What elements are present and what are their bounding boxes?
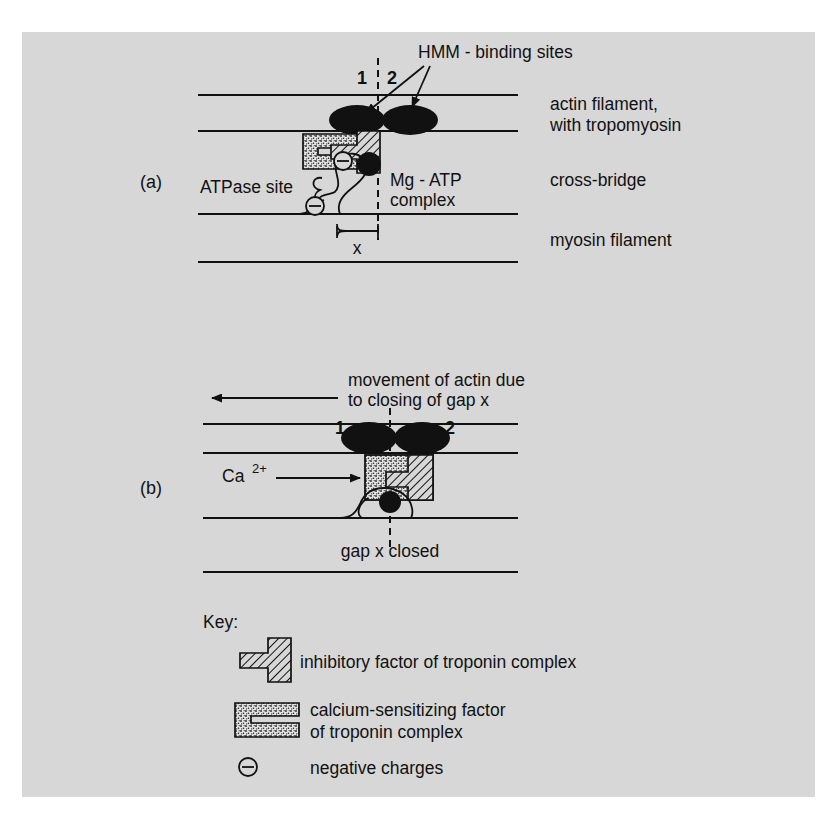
movement-label-line1: movement of actin due xyxy=(348,370,525,390)
mg-atp-label-line2: complex xyxy=(390,190,455,210)
panel-a: (a) 1 2 HMM - binding sites xyxy=(140,42,681,262)
key-item-1-label: inhibitory factor of troponin complex xyxy=(300,652,576,672)
hmm-binding-site-1-b xyxy=(341,422,397,454)
key-item-3-label: negative charges xyxy=(310,758,444,778)
mg-atp-complex-blob xyxy=(357,152,381,176)
site-1-number-b: 1 xyxy=(335,418,345,438)
panel-b: (b) movement of actin due to closing of … xyxy=(140,370,525,572)
cross-bridge-label: cross-bridge xyxy=(550,170,646,190)
myosin-filament-label: myosin filament xyxy=(550,230,672,250)
gap-x-label-a: x xyxy=(353,238,362,258)
site-2-number-a: 2 xyxy=(387,68,397,88)
mg-atp-complex-blob-b xyxy=(379,491,401,513)
cross-bridge-outline-b xyxy=(203,488,518,518)
key-item-2-label-line1: calcium-sensitizing factor xyxy=(310,700,506,720)
negative-charge-a-1 xyxy=(334,152,352,170)
panel-b-label: (b) xyxy=(140,478,162,498)
mg-atp-label-line1: Mg - ATP xyxy=(390,170,462,190)
negative-charge-symbol xyxy=(239,758,257,776)
site-1-number-a: 1 xyxy=(357,68,367,88)
actin-filament-label-line2: with tropomyosin xyxy=(549,115,681,135)
calcium-ion-label: Ca xyxy=(222,466,245,486)
key-title: Key: xyxy=(203,612,238,632)
calcium-ion-charge: 2+ xyxy=(252,461,267,476)
diagram-canvas: (a) 1 2 HMM - binding sites xyxy=(0,0,829,822)
cross-bridge-inner-curve-b xyxy=(359,498,368,518)
hmm-binding-sites-label: HMM - binding sites xyxy=(418,42,573,62)
gap-x-closed-label: gap x closed xyxy=(341,541,439,561)
hmm-binding-site-2-b xyxy=(394,422,450,454)
key-item-2-label-line2: of troponin complex xyxy=(310,722,463,742)
site-2-number-b: 2 xyxy=(445,418,455,438)
actin-filament-label-line1: actin filament, xyxy=(550,94,658,114)
calcium-sensitizing-factor-symbol xyxy=(235,703,299,737)
movement-label-line2: to closing of gap x xyxy=(348,390,489,410)
hmm-binding-site-2 xyxy=(382,105,438,135)
panel-a-label: (a) xyxy=(140,172,162,192)
atpase-site-label: ATPase site xyxy=(200,177,293,197)
key-legend: Key: inhibitory factor of troponin compl… xyxy=(203,612,576,778)
inhibitory-factor-symbol xyxy=(240,638,291,682)
hmm-arrow-to-site-2 xyxy=(412,66,430,107)
negative-charge-a-2 xyxy=(306,197,324,215)
gap-x-brace xyxy=(337,224,378,238)
